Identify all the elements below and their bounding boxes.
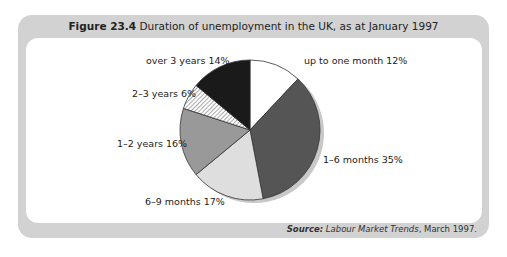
pie-chart (0, 0, 507, 257)
label-over-3-years: over 3 years 14% (146, 55, 230, 66)
label-1-2-years: 1–2 years 16% (117, 138, 187, 149)
label-2-3-years: 2–3 years 6% (132, 88, 196, 99)
label-1-6-months: 1–6 months 35% (323, 154, 403, 165)
label-6-9-months: 6–9 months 17% (145, 196, 225, 207)
pie-slices (180, 60, 320, 200)
label-up-to-one-month: up to one month 12% (304, 55, 407, 66)
